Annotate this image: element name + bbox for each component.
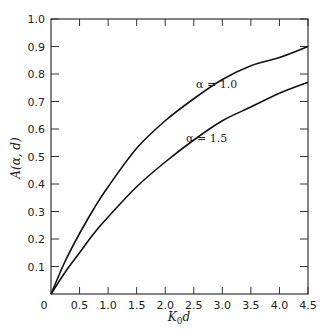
y-tick-label: 0.9 — [28, 41, 46, 54]
x-tick-label: 4.0 — [271, 299, 289, 312]
x-tick-label: 4.5 — [299, 299, 317, 312]
x-tick-label: 0.5 — [71, 299, 89, 312]
data-curves — [51, 47, 308, 295]
annotation-alpha-1-0: α = 1.0 — [196, 78, 237, 91]
y-tick-label: 0.3 — [28, 206, 46, 219]
y-axis-label: A(α, d) — [9, 137, 23, 180]
y-tick-label: 0.7 — [28, 96, 46, 109]
x-axis-label: K0d — [167, 310, 191, 326]
x-tick-label: 1.5 — [128, 299, 146, 312]
x-tick-label: 1.0 — [99, 299, 117, 312]
curve-series-2 — [51, 82, 308, 294]
y-tick-label: 0.5 — [28, 151, 46, 164]
origin-label: 0 — [41, 299, 48, 312]
y-tick-label: 0.8 — [28, 68, 46, 81]
y-tick-label: 1.0 — [28, 13, 46, 26]
x-tick-label: 3.0 — [214, 299, 232, 312]
line-chart: 0.51.01.52.02.53.03.54.04.50.10.20.30.40… — [0, 0, 327, 334]
y-tick-label: 0.4 — [28, 178, 46, 191]
axis-ticks: 0.51.01.52.02.53.03.54.04.50.10.20.30.40… — [28, 13, 317, 312]
y-tick-label: 0.6 — [28, 123, 46, 136]
curve-series-1 — [51, 47, 308, 295]
y-tick-label: 0.1 — [28, 261, 46, 274]
y-tick-label: 0.2 — [28, 233, 46, 246]
x-tick-label: 3.5 — [242, 299, 260, 312]
annotation-alpha-1-5: α = 1.5 — [186, 132, 227, 145]
